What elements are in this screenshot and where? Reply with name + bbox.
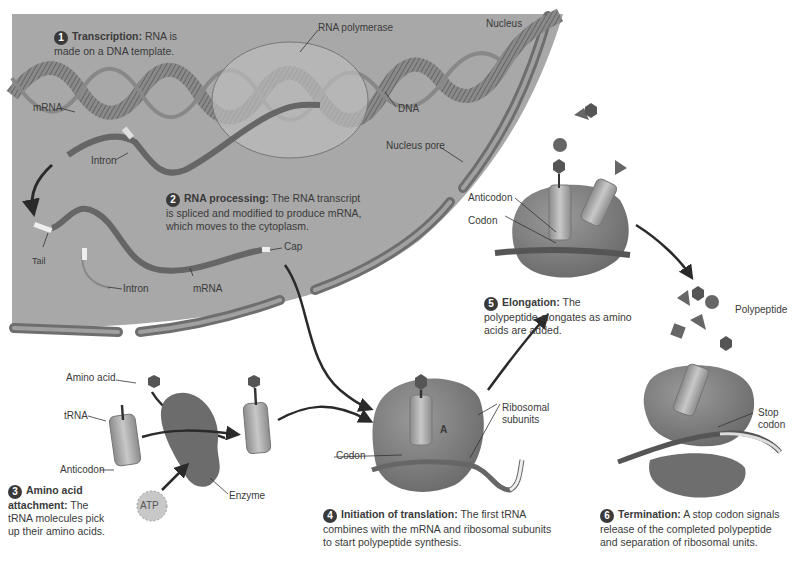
intron-piece: [82, 248, 87, 260]
polypeptide-chain-art: [670, 286, 732, 351]
step-number-badge: 1: [54, 31, 68, 45]
amino-acid-label: Amino acid: [66, 372, 115, 384]
stop-codon-label-1: Stop: [758, 407, 779, 419]
mrna-label-mid: mRNA: [193, 283, 222, 295]
elongation-ribosome-art: [495, 103, 630, 278]
stop-codon-label-2: codon: [758, 419, 785, 431]
termination-ribosome-art: [618, 363, 780, 498]
polypeptide-label: Polypeptide: [735, 304, 787, 316]
step-number-badge: 5: [484, 297, 498, 311]
step-5-elongation: 5Elongation: The polypeptide elongates a…: [484, 296, 634, 337]
step-6-termination: 6Termination: A stop codon signals relea…: [600, 508, 785, 549]
arrow-elongation-to-termination: [636, 225, 690, 275]
protein-synthesis-diagram: [0, 0, 800, 562]
step-2-rna-processing: 2RNA processing: The RNA transcript is s…: [166, 192, 366, 233]
step-3-amino-acid-attachment: 3Amino acid attachment: The tRNA molecul…: [8, 484, 108, 537]
intron-label-top: Intron: [91, 155, 117, 167]
intron-label-mid: Intron: [123, 283, 149, 295]
enzyme-label: Enzyme: [229, 490, 265, 502]
step-4-initiation: 4Initiation of translation: The first tR…: [323, 508, 558, 549]
step-number-badge: 2: [166, 193, 180, 207]
step-number-badge: 6: [600, 509, 614, 523]
codon-label-elongation: Codon: [468, 215, 497, 227]
rna-polymerase: [212, 42, 368, 158]
ribosomal-subunits-label-1: Ribosomal: [502, 402, 549, 414]
dna-label: DNA: [398, 103, 419, 115]
step-number-badge: 4: [323, 509, 337, 523]
rna-polymerase-label: RNA polymerase: [318, 22, 393, 34]
tail-label: Tail: [32, 256, 46, 266]
nucleus-pore-label: Nucleus pore: [386, 140, 445, 152]
codon-label-initiation: Codon: [336, 450, 365, 462]
step-number-badge: 3: [8, 485, 22, 499]
nucleus-label: Nucleus: [486, 18, 522, 30]
step-title: Initiation of translation:: [341, 508, 458, 520]
ribosomal-subunits-label-2: subunits: [502, 414, 539, 426]
step-title: Elongation:: [502, 296, 560, 308]
anticodon-label-left: Anticodon: [60, 464, 104, 476]
mrna-label-top: mRNA: [33, 102, 62, 114]
cap-label: Cap: [284, 241, 302, 253]
step-title: Transcription:: [72, 30, 142, 42]
atp-label: ATP: [140, 500, 159, 511]
step-title: Termination:: [618, 508, 681, 520]
anticodon-label-elongation: Anticodon: [468, 192, 512, 204]
trna-label: tRNA: [64, 410, 88, 422]
a-site-label: A: [440, 424, 447, 436]
mrna-cap: [262, 247, 270, 252]
step-title: RNA processing:: [184, 192, 269, 204]
step-1-transcription: 1Transcription: RNA is made on a DNA tem…: [54, 30, 194, 58]
